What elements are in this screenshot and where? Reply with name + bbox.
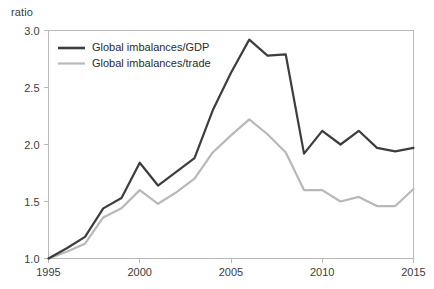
series-line-trade bbox=[49, 119, 414, 258]
y-tick-label: 2.5 bbox=[24, 82, 39, 94]
series-line-gdp bbox=[49, 40, 414, 259]
y-tick-label: 1.0 bbox=[24, 253, 39, 265]
y-tick-label: 1.5 bbox=[24, 196, 39, 208]
x-tick-label: 2005 bbox=[219, 266, 243, 278]
x-tick-label: 2015 bbox=[401, 266, 425, 278]
y-tick-label: 3.0 bbox=[24, 25, 39, 37]
x-tick-label: 2010 bbox=[310, 266, 334, 278]
legend-label: Global imbalances/GDP bbox=[92, 41, 209, 53]
chart-legend: Global imbalances/GDPGlobal imbalances/t… bbox=[58, 41, 211, 69]
y-tick-label: 2.0 bbox=[24, 139, 39, 151]
x-tick-label: 1995 bbox=[36, 266, 60, 278]
x-axis-ticks: 19952000200520102015 bbox=[36, 259, 425, 278]
legend-label: Global imbalances/trade bbox=[92, 57, 211, 69]
x-tick-label: 2000 bbox=[128, 266, 152, 278]
chart-plot-area: 1.01.52.02.53.0 19952000200520102015 Glo… bbox=[0, 0, 434, 289]
data-series-group bbox=[49, 40, 414, 259]
chart-container: ratio 1.01.52.02.53.0 199520002005201020… bbox=[0, 0, 434, 289]
y-axis-ticks: 1.01.52.02.53.0 bbox=[24, 25, 48, 265]
